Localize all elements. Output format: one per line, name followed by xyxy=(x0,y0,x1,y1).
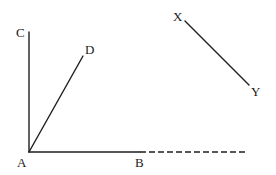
label-d: D xyxy=(85,42,94,57)
label-b: B xyxy=(135,155,144,170)
segment-ad xyxy=(29,56,83,152)
label-a: A xyxy=(17,155,27,170)
geometry-diagram: C D A B X Y xyxy=(0,0,276,175)
label-c: C xyxy=(16,25,25,40)
label-x: X xyxy=(173,9,183,24)
segment-xy xyxy=(185,21,249,85)
label-y: Y xyxy=(251,84,261,99)
